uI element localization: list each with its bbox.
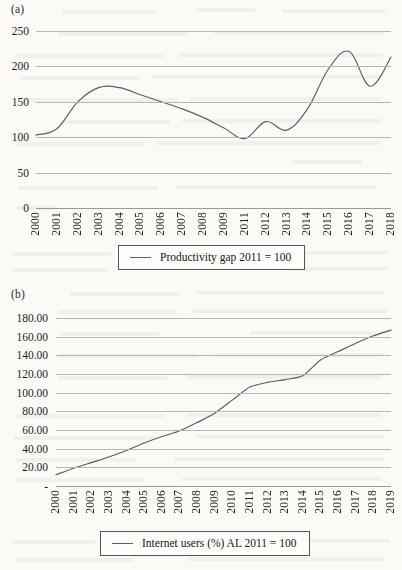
line-swatch-icon bbox=[112, 543, 133, 544]
y-axis-tick-label: 50 bbox=[18, 167, 30, 178]
x-axis-tick-label: 2012 bbox=[262, 490, 274, 514]
gridline bbox=[36, 31, 391, 32]
x-axis-tick-label: 2014 bbox=[297, 490, 309, 514]
x-axis-tick-label: 2015 bbox=[322, 212, 334, 236]
gridline bbox=[56, 374, 391, 375]
y-axis-tick-label: 140.00 bbox=[16, 350, 48, 361]
y-axis-labels-a: 050100150200250 bbox=[0, 31, 33, 208]
y-axis-tick-label: 40.00 bbox=[22, 443, 48, 454]
x-axis-tick-label: 2003 bbox=[93, 212, 105, 236]
x-axis-tick-label: 2005 bbox=[138, 490, 150, 514]
x-axis-tick-label: 2001 bbox=[68, 490, 80, 514]
gridline bbox=[56, 337, 391, 338]
y-axis-tick-label: 100 bbox=[12, 132, 29, 143]
x-axis-tick-label: 2000 bbox=[30, 212, 42, 236]
gridline bbox=[56, 449, 391, 450]
y-axis-labels-b: -20.0040.0060.0080.00100.00120.00140.001… bbox=[0, 318, 52, 486]
panel-a-label: (a) bbox=[11, 3, 24, 15]
x-axis-tick-label: 2006 bbox=[156, 490, 168, 514]
y-axis-tick-label: 150 bbox=[12, 96, 29, 107]
x-axis-tick-label: 2007 bbox=[176, 212, 188, 236]
gridline bbox=[56, 467, 391, 468]
gridline bbox=[56, 318, 391, 319]
line-swatch-icon bbox=[130, 257, 151, 258]
x-axis-tick-label: 2005 bbox=[134, 212, 146, 236]
series-line-a bbox=[36, 31, 391, 208]
gridline bbox=[36, 173, 391, 174]
series-line-b bbox=[56, 318, 391, 486]
plot-area-a bbox=[36, 31, 391, 208]
x-axis-tick-label: 2004 bbox=[121, 490, 133, 514]
y-axis-tick-label: 160.00 bbox=[16, 331, 48, 342]
gridline bbox=[56, 411, 391, 412]
x-axis-tick-label: 2010 bbox=[226, 490, 238, 514]
gridline bbox=[56, 393, 391, 394]
y-axis-tick-label: 20.00 bbox=[22, 462, 48, 473]
x-axis-tick-label: 2011 bbox=[239, 212, 251, 235]
x-axis-tick-label: 2017 bbox=[350, 490, 362, 514]
y-axis-tick-label: 180.00 bbox=[16, 313, 48, 324]
x-axis-tick-label: 2009 bbox=[218, 212, 230, 236]
gridline bbox=[56, 355, 391, 356]
gridline bbox=[56, 486, 391, 487]
y-axis-tick-label: - bbox=[44, 481, 48, 492]
x-axis-tick-label: 2014 bbox=[301, 212, 313, 236]
x-axis-tick-label: 2007 bbox=[173, 490, 185, 514]
y-axis-tick-label: 200 bbox=[12, 61, 29, 72]
x-axis-tick-label: 2012 bbox=[260, 212, 272, 236]
x-axis-tick-label: 2019 bbox=[385, 490, 397, 514]
y-axis-tick-label: 60.00 bbox=[22, 425, 48, 436]
plot-area-b bbox=[56, 318, 391, 486]
x-axis-tick-label: 2015 bbox=[314, 490, 326, 514]
x-axis-tick-label: 2008 bbox=[191, 490, 203, 514]
x-axis-tick-label: 2009 bbox=[209, 490, 221, 514]
y-axis-tick-label: 100.00 bbox=[16, 387, 48, 398]
x-axis-tick-label: 2004 bbox=[114, 212, 126, 236]
x-axis-tick-label: 2011 bbox=[244, 490, 256, 513]
gridline bbox=[36, 208, 391, 209]
x-axis-tick-label: 2013 bbox=[281, 212, 293, 236]
y-axis-tick-label: 250 bbox=[12, 26, 29, 37]
x-axis-tick-label: 2018 bbox=[367, 490, 379, 514]
x-axis-tick-label: 2016 bbox=[343, 212, 355, 236]
x-axis-tick-label: 2002 bbox=[72, 212, 84, 236]
x-axis-tick-label: 2016 bbox=[332, 490, 344, 514]
y-axis-tick-label: 80.00 bbox=[22, 406, 48, 417]
legend-a-label: Productivity gap 2011 = 100 bbox=[160, 251, 291, 263]
x-axis-tick-label: 2018 bbox=[385, 212, 397, 236]
x-axis-tick-label: 2000 bbox=[50, 490, 62, 514]
gridline bbox=[36, 137, 391, 138]
x-axis-tick-label: 2003 bbox=[103, 490, 115, 514]
x-axis-tick-label: 2001 bbox=[51, 212, 63, 236]
legend-a: Productivity gap 2011 = 100 bbox=[118, 245, 305, 270]
x-axis-tick-label: 2008 bbox=[197, 212, 209, 236]
x-axis-tick-label: 2013 bbox=[279, 490, 291, 514]
legend-b-label: Internet users (%) AL 2011 = 100 bbox=[142, 537, 296, 549]
panel-b-label: (b) bbox=[11, 288, 25, 300]
x-axis-tick-label: 2017 bbox=[364, 212, 376, 236]
legend-b: Internet users (%) AL 2011 = 100 bbox=[100, 531, 310, 556]
x-axis-tick-label: 2002 bbox=[85, 490, 97, 514]
gridline bbox=[56, 430, 391, 431]
y-axis-tick-label: 120.00 bbox=[16, 369, 48, 380]
x-axis-tick-label: 2006 bbox=[155, 212, 167, 236]
gridline bbox=[36, 66, 391, 67]
gridline bbox=[36, 102, 391, 103]
